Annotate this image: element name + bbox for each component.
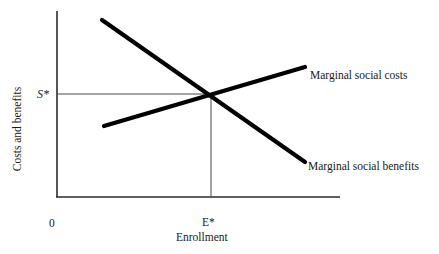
e-star-axis-label: E*: [202, 217, 215, 229]
marginal-social-benefits-curve: [102, 20, 305, 162]
marginal-social-benefits-label: Marginal social benefits: [308, 161, 419, 173]
economics-supply-demand-figure: Marginal social costs Marginal social be…: [0, 0, 439, 254]
marginal-social-costs-label: Marginal social costs: [310, 70, 408, 82]
y-axis-title: Costs and benefits: [11, 67, 23, 191]
s-star-axis-label: S*: [37, 88, 49, 100]
origin-label: 0: [49, 218, 55, 230]
marginal-social-costs-curve: [104, 67, 305, 126]
x-axis-title: Enrollment: [176, 232, 228, 244]
chart-canvas: [0, 0, 439, 254]
